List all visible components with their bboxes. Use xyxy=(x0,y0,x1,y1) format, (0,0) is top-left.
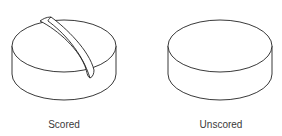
unscored-tablet xyxy=(168,20,272,100)
unscored-label: Unscored xyxy=(181,119,261,130)
scored-tablet xyxy=(12,17,116,100)
scored-label: Scored xyxy=(24,119,104,130)
tablet-diagram xyxy=(0,0,282,136)
unscored-tablet-top xyxy=(168,20,272,72)
